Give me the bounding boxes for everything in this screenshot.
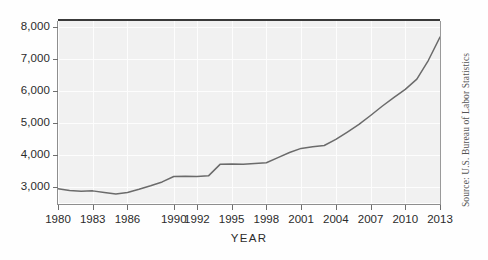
y-tick-label: 5,000 xyxy=(2,116,50,128)
x-tick-mark xyxy=(58,205,59,210)
x-tick-mark xyxy=(197,205,198,210)
y-tick-label-wrap: 4,000 xyxy=(0,148,50,162)
y-tick-label-wrap: 3,000 xyxy=(0,180,50,194)
x-axis-title: YEAR xyxy=(58,232,440,244)
series-value-line xyxy=(58,37,440,194)
x-tick-mark xyxy=(93,205,94,210)
x-tick-label: 2013 xyxy=(419,213,461,225)
chart-figure: 3,0004,0005,0006,0007,0008,000 198019831… xyxy=(0,0,488,260)
x-tick-label: 1986 xyxy=(106,213,148,225)
y-tick-label-wrap: 7,000 xyxy=(0,52,50,66)
y-tick-label: 3,000 xyxy=(2,180,50,192)
x-tick-mark xyxy=(440,205,441,210)
y-tick-label: 8,000 xyxy=(2,20,50,32)
y-tick-label: 4,000 xyxy=(2,148,50,160)
x-tick-mark xyxy=(301,205,302,210)
x-tick-mark xyxy=(127,205,128,210)
x-tick-mark xyxy=(266,205,267,210)
x-tick-mark xyxy=(232,205,233,210)
x-axis-spine xyxy=(57,204,441,205)
y-tick-label-wrap: 5,000 xyxy=(0,116,50,130)
y-tick-label-wrap: 6,000 xyxy=(0,84,50,98)
x-tick-mark xyxy=(174,205,175,210)
data-line-series xyxy=(58,21,440,203)
source-attribution: Source: U.S. Bureau of Labor Statistics xyxy=(461,53,471,207)
y-tick-label: 7,000 xyxy=(2,52,50,64)
y-tick-label-wrap: 8,000 xyxy=(0,20,50,34)
x-tick-mark xyxy=(371,205,372,210)
y-tick-label: 6,000 xyxy=(2,84,50,96)
plot-right-spine xyxy=(440,21,441,205)
x-tick-mark xyxy=(405,205,406,210)
x-tick-mark xyxy=(336,205,337,210)
